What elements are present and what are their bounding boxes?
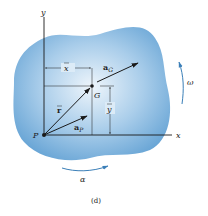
- point-g: [90, 84, 94, 88]
- y-bar-label: y: [106, 105, 112, 114]
- omega-label: ω: [187, 78, 194, 87]
- point-p: [42, 133, 46, 137]
- point-g-label: G: [94, 91, 101, 100]
- rigid-body-kinematics-diagram: y x x y r aP aG P G ω α (d): [0, 0, 208, 216]
- omega-rotation-arrow: [179, 62, 183, 104]
- x-axis-label: x: [176, 131, 181, 140]
- point-p-label: P: [32, 131, 39, 140]
- y-axis-label: y: [40, 8, 46, 17]
- figure-caption: (d): [91, 197, 101, 205]
- x-bar-label: x: [64, 64, 69, 73]
- alpha-rotation-arrow: [62, 166, 108, 171]
- alpha-label: α: [80, 175, 86, 184]
